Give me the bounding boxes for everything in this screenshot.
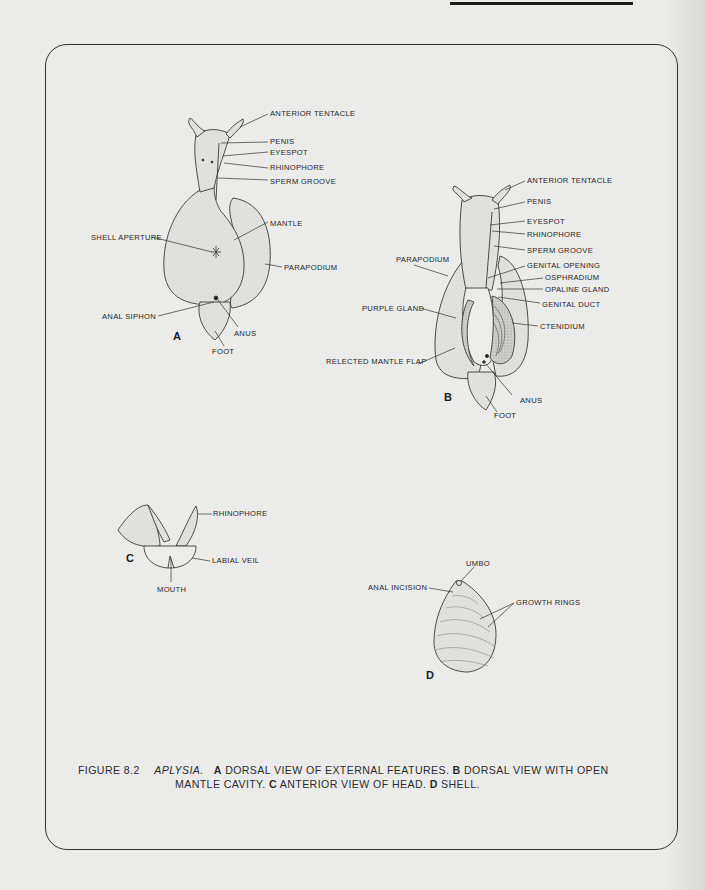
label-b-penis: PENIS: [527, 197, 551, 206]
caption-letter-c: C: [269, 778, 277, 790]
label-c-rhinophore: RHINOPHORE: [213, 509, 267, 518]
label-d-growth-rings: GROWTH RINGS: [516, 598, 580, 607]
label-a-mantle: MANTLE: [270, 219, 303, 228]
label-a-eyespot: EYESPOT: [270, 148, 308, 157]
panel-d-shell: [434, 581, 496, 673]
caption-letter-a: A: [214, 764, 222, 776]
panel-letter-b: B: [444, 391, 452, 403]
caption-line-2: MANTLE CAVITY. C ANTERIOR VIEW OF HEAD. …: [78, 777, 609, 791]
label-a-foot: FOOT: [212, 347, 234, 356]
caption-text-c: ANTERIOR VIEW OF HEAD.: [280, 778, 427, 790]
label-a-rhinophore: RHINOPHORE: [270, 163, 324, 172]
panel-letter-c: C: [126, 552, 134, 564]
figure-genus: APLYSIA.: [154, 764, 203, 776]
figure-number: FIGURE 8.2: [78, 763, 151, 777]
caption-letter-b: B: [453, 764, 461, 776]
label-a-parapodium: PARAPODIUM: [284, 263, 338, 272]
label-a-anterior-tentacle: ANTERIOR TENTACLE: [270, 109, 355, 118]
label-b-sperm-groove: SPERM GROOVE: [527, 246, 593, 255]
caption-text-a: DORSAL VIEW OF EXTERNAL FEATURES.: [225, 764, 449, 776]
label-b-genital-opening: GENITAL OPENING: [527, 261, 600, 270]
label-a-sperm-groove: SPERM GROOVE: [270, 177, 336, 186]
label-b-relected-mantle-flap: RELECTED MANTLE FLAP: [326, 357, 427, 366]
caption-line-1: FIGURE 8.2 APLYSIA. A DORSAL VIEW OF EXT…: [78, 763, 609, 777]
caption-text-b-2: MANTLE CAVITY.: [175, 778, 266, 790]
figure-caption: FIGURE 8.2 APLYSIA. A DORSAL VIEW OF EXT…: [78, 763, 609, 791]
label-a-anal-siphon: ANAL SIPHON: [102, 312, 156, 321]
label-a-shell-aperture: SHELL APERTURE: [91, 233, 162, 242]
label-d-umbo: UMBO: [466, 559, 490, 568]
panel-letter-d: D: [426, 669, 434, 681]
caption-letter-d: D: [430, 778, 438, 790]
panel-letter-a: A: [173, 330, 181, 342]
label-b-foot: FOOT: [494, 411, 516, 420]
label-d-anal-incision: ANAL INCISION: [368, 583, 427, 592]
label-b-rhinophore: RHINOPHORE: [527, 230, 581, 239]
label-c-labial-veil: LABIAL VEIL: [212, 556, 259, 565]
caption-text-d: SHELL.: [441, 778, 480, 790]
label-b-purple-gland: PURPLE GLAND: [362, 304, 424, 313]
label-b-opaline-gland: OPALINE GLAND: [545, 285, 610, 294]
label-b-eyespot: EYESPOT: [527, 217, 565, 226]
caption-text-b-1: DORSAL VIEW WITH OPEN: [464, 764, 609, 776]
label-b-anus: ANUS: [520, 396, 542, 405]
label-a-penis: PENIS: [270, 137, 294, 146]
panel-b-dorsal-open-mantle: [435, 185, 528, 410]
label-b-anterior-tentacle: ANTERIOR TENTACLE: [527, 176, 612, 185]
label-b-genital-duct: GENITAL DUCT: [542, 300, 601, 309]
label-c-mouth: MOUTH: [157, 585, 186, 594]
label-a-anus: ANUS: [234, 329, 256, 338]
figure-illustrations: ANTERIOR TENTACLE PENIS EYESPOT RHINOPHO…: [0, 0, 705, 890]
label-b-parapodium: PARAPODIUM: [396, 255, 450, 264]
label-b-ctenidium: CTENIDIUM: [540, 322, 585, 331]
label-b-osphradium: OSPHRADIUM: [545, 273, 599, 282]
